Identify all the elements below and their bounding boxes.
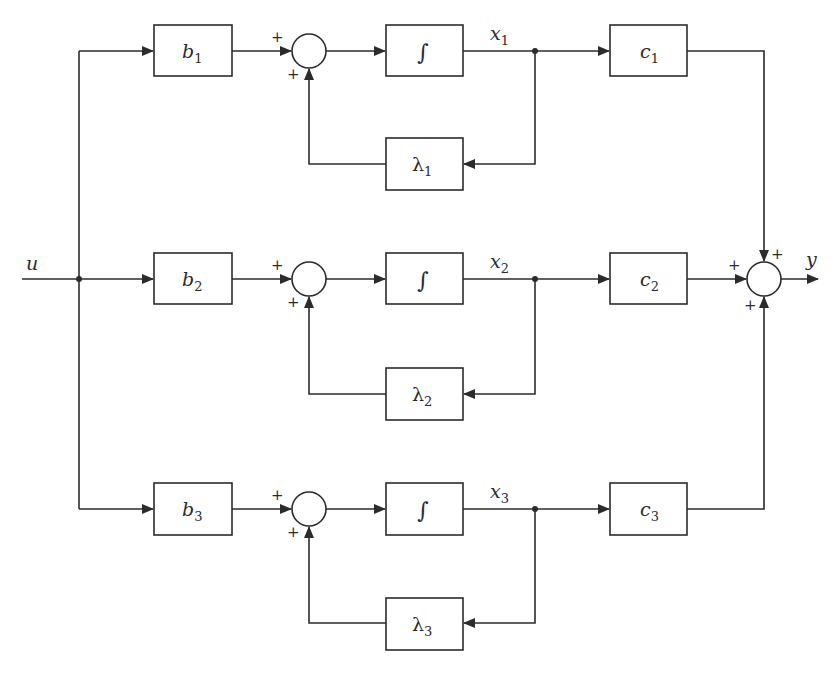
svg-text:+: + [287, 293, 300, 311]
mode-row-2: b2 + + ∫ x2 c2 λ2 [79, 250, 746, 420]
svg-text:+: + [287, 65, 300, 83]
state-label-x3: x3 [490, 480, 509, 506]
state-label-x1: x1 [490, 22, 509, 48]
feedback-gain-block-lambda3: λ3 [386, 598, 463, 650]
input-label: u [26, 252, 38, 274]
input-signal: u [22, 51, 82, 509]
output-label: y [805, 248, 817, 270]
svg-text:+: + [287, 523, 300, 541]
summing-junction-3: + + [271, 486, 326, 541]
feedback-gain-block-lambda2: λ2 [386, 368, 463, 420]
integrator-block-2: ∫ [386, 253, 463, 304]
svg-text:+: + [271, 28, 284, 46]
feedback-gain-block-lambda1: λ1 [386, 138, 463, 190]
svg-text:∫: ∫ [417, 40, 429, 65]
summing-junction-1: + + [271, 28, 326, 83]
svg-text:∫: ∫ [417, 268, 429, 293]
svg-text:+: + [744, 296, 757, 314]
output-gain-block-c1: c1 [610, 25, 687, 76]
svg-text:+: + [771, 245, 784, 263]
svg-text:+: + [271, 486, 284, 504]
output-gain-block-c3: c3 [610, 483, 687, 535]
output-gain-block-c2: c2 [610, 253, 687, 304]
input-gain-block-b1: b1 [154, 25, 232, 76]
svg-text:+: + [271, 256, 284, 274]
mode-row-3: b3 + + ∫ x3 c3 λ3 [79, 297, 764, 650]
summing-junction-2: + + [271, 256, 326, 311]
block-diagram: u b1 + + ∫ x1 c1 λ1 [0, 0, 839, 673]
state-label-x2: x2 [490, 250, 509, 276]
input-gain-block-b3: b3 [154, 483, 232, 535]
svg-text:+: + [728, 256, 741, 274]
mode-row-1: b1 + + ∫ x1 c1 λ1 [79, 22, 764, 261]
integrator-block-1: ∫ [386, 25, 463, 76]
svg-text:∫: ∫ [417, 498, 429, 523]
input-gain-block-b2: b2 [154, 253, 232, 304]
integrator-block-3: ∫ [386, 483, 463, 535]
